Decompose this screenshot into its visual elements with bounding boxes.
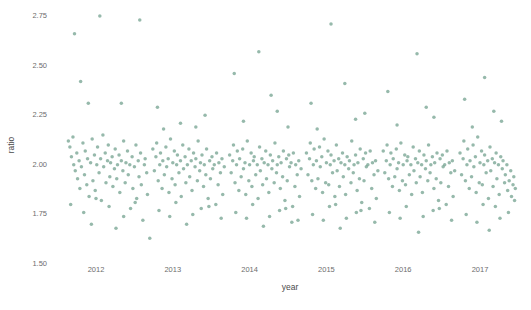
scatter-point: [293, 185, 297, 189]
scatter-point: [223, 165, 227, 169]
scatter-point: [238, 157, 242, 161]
scatter-point: [484, 171, 488, 175]
y-tick-label: 2.50: [32, 61, 47, 70]
scatter-point: [309, 141, 313, 145]
scatter-point: [279, 161, 283, 165]
scatter-point: [375, 197, 379, 201]
scatter-point: [401, 163, 405, 167]
scatter-point: [415, 181, 419, 185]
scatter-point: [444, 203, 448, 207]
scatter-point: [342, 175, 346, 179]
scatter-point: [117, 153, 121, 157]
scatter-point: [308, 157, 312, 161]
scatter-point: [358, 177, 362, 181]
scatter-point: [148, 236, 152, 240]
scatter-point: [252, 159, 256, 163]
scatter-point: [381, 149, 385, 153]
scatter-point: [348, 159, 352, 163]
scatter-point: [283, 199, 287, 203]
scatter-point: [417, 231, 421, 235]
scatter-point: [110, 155, 114, 159]
scatter-point: [366, 163, 370, 167]
scatter-point: [252, 155, 256, 159]
scatter-point: [497, 193, 501, 197]
scatter-point: [213, 163, 217, 167]
scatter-point: [512, 175, 516, 179]
scatter-point: [277, 155, 281, 159]
scatter-point: [154, 155, 158, 159]
scatter-point: [387, 177, 391, 181]
scatter-point: [329, 22, 333, 26]
scatter-point: [229, 171, 233, 175]
scatter-point: [315, 159, 319, 163]
scatter-point: [298, 195, 302, 199]
scatter-point: [441, 153, 445, 157]
scatter-point: [141, 219, 145, 223]
scatter-point: [474, 155, 478, 159]
scatter-point: [319, 165, 323, 169]
scatter-point: [106, 159, 110, 163]
scatter-point: [354, 153, 358, 157]
chart-canvas: 1.501.752.002.252.502.75 201220132014201…: [0, 0, 531, 310]
scatter-point: [257, 50, 261, 54]
scatter-point: [355, 211, 359, 215]
scatter-point: [428, 171, 432, 175]
scatter-point: [72, 163, 76, 167]
scatter-point: [281, 175, 285, 179]
scatter-point: [498, 217, 502, 221]
scatter-point: [186, 163, 190, 167]
scatter-point: [81, 141, 85, 145]
scatter-point: [489, 169, 493, 173]
scatter-point: [135, 197, 139, 201]
scatter-point: [412, 169, 416, 173]
scatter-point: [429, 163, 433, 167]
scatter-point: [491, 185, 495, 189]
scatter-point: [145, 171, 149, 175]
scatter-point: [77, 159, 81, 163]
scatter-point: [84, 149, 88, 153]
scatter-point: [326, 149, 330, 153]
scatter-point: [91, 179, 95, 183]
scatter-point: [171, 161, 175, 165]
scatter-point: [424, 159, 428, 163]
scatter-point: [247, 179, 251, 183]
scatter-point: [449, 171, 453, 175]
scatter-point: [299, 167, 303, 171]
scatter-point: [241, 147, 245, 151]
scatter-point: [190, 189, 194, 193]
scatter-point: [354, 117, 358, 121]
scatter-point: [393, 175, 397, 179]
scatter-point: [376, 169, 380, 173]
scatter-point: [143, 163, 147, 167]
scatter-point: [127, 173, 131, 177]
scatter-point: [482, 163, 486, 167]
scatter-point: [284, 207, 288, 211]
scatter-point: [161, 159, 165, 163]
scatter-point: [286, 125, 290, 129]
scatter-point: [347, 167, 351, 171]
scatter-point: [266, 163, 270, 167]
scatter-point: [403, 153, 407, 157]
scatter-point: [427, 143, 431, 147]
scatter-point: [501, 167, 505, 171]
scatter-point: [506, 189, 510, 193]
scatter-point: [399, 141, 403, 145]
scatter-point: [239, 175, 243, 179]
scatter-point: [358, 147, 362, 151]
scatter-point: [176, 153, 180, 157]
scatter-point: [481, 183, 485, 187]
scatter-point: [73, 32, 77, 36]
scatter-point: [414, 157, 418, 161]
scatter-point: [443, 163, 447, 167]
scatter-point: [261, 183, 265, 187]
scatter-point: [385, 143, 389, 147]
scatter-point: [237, 189, 241, 193]
scatter-point: [216, 183, 220, 187]
scatter-point: [173, 149, 177, 153]
scatter-point: [483, 76, 487, 80]
scatter-point: [168, 215, 172, 219]
scatter-point: [177, 171, 181, 175]
scatter-point: [107, 143, 111, 147]
scatter-point: [262, 161, 266, 165]
scatter-point: [207, 205, 211, 209]
